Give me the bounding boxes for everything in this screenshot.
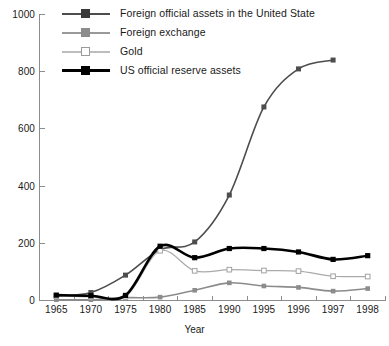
data-point-filled-square xyxy=(296,66,301,71)
series-layer xyxy=(0,0,389,346)
chart-figure: 02004006008001000 1965197019751980198519… xyxy=(0,0,389,346)
data-point-open-square xyxy=(365,274,370,279)
data-point-filled-square xyxy=(262,284,267,289)
data-point-open-square xyxy=(158,249,163,254)
data-point-filled-square xyxy=(227,246,232,251)
data-point-filled-square xyxy=(158,295,163,300)
data-point-filled-square xyxy=(123,293,128,298)
legend-label: Gold xyxy=(120,42,143,61)
data-point-filled-square xyxy=(296,249,301,254)
data-point-filled-square xyxy=(123,273,128,278)
data-point-filled-square xyxy=(158,244,163,249)
data-point-open-square xyxy=(262,268,267,273)
legend-label: Foreign exchange xyxy=(120,23,206,42)
data-point-filled-square xyxy=(192,255,197,260)
data-point-filled-square xyxy=(261,104,266,109)
legend-label: Foreign official assets in the United St… xyxy=(120,4,315,23)
data-point-filled-square xyxy=(192,239,197,244)
legend-label: US official reserve assets xyxy=(120,61,241,80)
series-gold xyxy=(54,249,370,301)
data-point-open-square xyxy=(192,269,197,274)
data-point-filled-square xyxy=(227,193,232,198)
data-point-filled-square xyxy=(88,293,93,298)
data-point-filled-square xyxy=(227,281,232,286)
data-point-open-square xyxy=(331,274,336,279)
data-point-open-square xyxy=(227,267,232,272)
data-point-filled-square xyxy=(54,293,59,298)
legend-marker-filled-square xyxy=(81,28,90,37)
data-point-open-square xyxy=(296,269,301,274)
data-point-filled-square xyxy=(331,289,336,294)
data-point-filled-square xyxy=(365,286,370,291)
series-line xyxy=(56,60,333,296)
data-point-filled-square xyxy=(261,246,266,251)
data-point-filled-square xyxy=(331,257,336,262)
legend-marker-filled-square xyxy=(81,9,90,18)
data-point-filled-square xyxy=(296,285,301,290)
data-point-filled-square xyxy=(192,288,197,293)
series-foreign-official-assets-in-the-united-state xyxy=(54,58,336,299)
data-point-filled-square xyxy=(331,58,336,63)
data-point-filled-square xyxy=(365,253,370,258)
series-line xyxy=(56,245,367,299)
legend-marker-open-square xyxy=(81,47,90,56)
legend-marker-filled-square xyxy=(81,66,90,75)
